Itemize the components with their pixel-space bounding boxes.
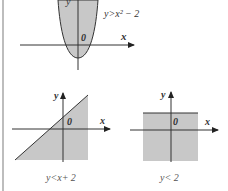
horizontal-graph: y 0 x [130,89,218,162]
x-axis-label: x [204,116,210,127]
y-axis-label: y [65,0,71,7]
y-axis-label: y [53,90,59,101]
inequality-label-horizontal: y< 2 [160,172,179,183]
y-axis-label: y [160,89,166,100]
inequality-label: y>x² − 2 [103,8,139,19]
x-axis-label: x [99,115,105,126]
inequality-label-line: y<x+ 2 [46,172,76,183]
line-graph: y 0 x [12,90,110,162]
origin-label: 0 [67,116,72,127]
parabola-graph: y 0 x y>x² − 2 [20,0,139,70]
origin-label: 0 [81,32,86,43]
inequality-diagrams: y 0 x y>x² − 2 y 0 x y 0 x [0,0,228,191]
origin-label: 0 [173,116,178,127]
x-axis-label: x [120,30,127,42]
